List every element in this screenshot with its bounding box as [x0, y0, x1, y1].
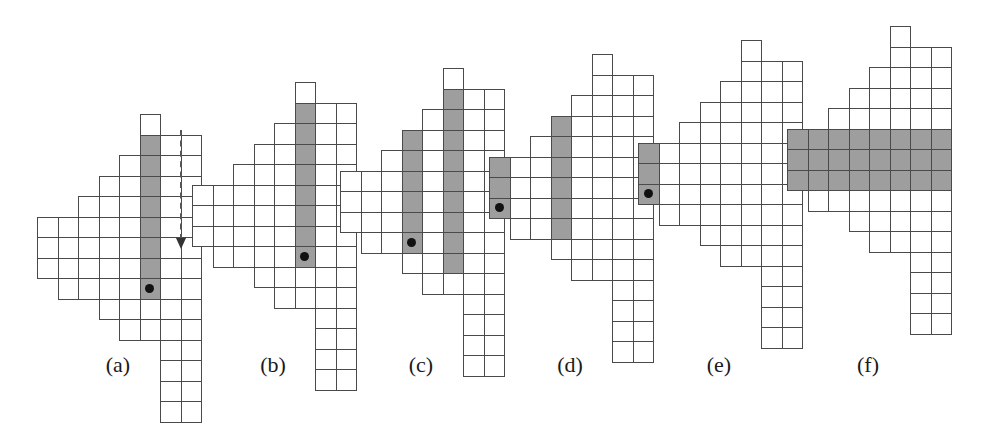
grid-cell [910, 190, 932, 212]
grid-cell [910, 293, 932, 315]
grid-cell [869, 149, 891, 171]
grid-cell [931, 149, 953, 171]
grid-cell [931, 313, 953, 335]
grid-cell [828, 170, 850, 192]
grid-cell [910, 211, 932, 233]
grid-cell [890, 211, 912, 233]
grid-cell [890, 149, 912, 171]
grid-cell [910, 252, 932, 274]
grid-cell [869, 129, 891, 151]
grid-cell [910, 313, 932, 335]
grid-cell [181, 401, 203, 423]
grid-cell [869, 231, 891, 253]
grid-cell [931, 293, 953, 315]
grid-cell [787, 170, 809, 192]
grid-cell [849, 211, 871, 233]
grid-cell [869, 108, 891, 130]
grid-cell [931, 129, 953, 151]
grid-cell [849, 190, 871, 212]
grid-cell [910, 88, 932, 110]
grid-cell [890, 67, 912, 89]
grid-cell [931, 272, 953, 294]
grid-cell [849, 129, 871, 151]
grid-cell [931, 108, 953, 130]
grid-cell [890, 26, 912, 48]
grid-cell [869, 67, 891, 89]
grid-cell [849, 170, 871, 192]
grid-cell [890, 129, 912, 151]
grid-cell [828, 108, 850, 130]
grid-cell [910, 108, 932, 130]
grid-cell [849, 149, 871, 171]
grid-cell [890, 170, 912, 192]
grid-cell [808, 129, 830, 151]
grid-cell [869, 88, 891, 110]
grid-cell [890, 231, 912, 253]
grid-cell [869, 170, 891, 192]
grid-cell [890, 190, 912, 212]
grid-cell [787, 149, 809, 171]
grid-cell [931, 170, 953, 192]
grid-cell [808, 149, 830, 171]
grid-cell [869, 211, 891, 233]
grid-cell [808, 190, 830, 212]
grid-cell [890, 88, 912, 110]
grid-cell [910, 47, 932, 69]
grid-cell [849, 108, 871, 130]
grid-cell [828, 149, 850, 171]
grid-cell [931, 231, 953, 253]
grid-cell [931, 252, 953, 274]
grid-cell [808, 170, 830, 192]
grid-cell [910, 231, 932, 253]
grid-cell [910, 272, 932, 294]
grid-cell [910, 129, 932, 151]
grid-cell [787, 129, 809, 151]
grid-cell [869, 190, 891, 212]
grid-cell [931, 88, 953, 110]
grid-cell [890, 108, 912, 130]
grid-cell [890, 47, 912, 69]
grid-cell [910, 149, 932, 171]
grid-cell [931, 211, 953, 233]
grid-cell [828, 190, 850, 212]
grid-cell [931, 67, 953, 89]
grid-cell [931, 190, 953, 212]
grid-cell [910, 170, 932, 192]
grid-cell [910, 67, 932, 89]
grid-cell [931, 47, 953, 69]
grid-cell [849, 88, 871, 110]
grid-cell [160, 401, 182, 423]
panel-caption-f: (f) [828, 352, 908, 378]
grid-cell [828, 129, 850, 151]
